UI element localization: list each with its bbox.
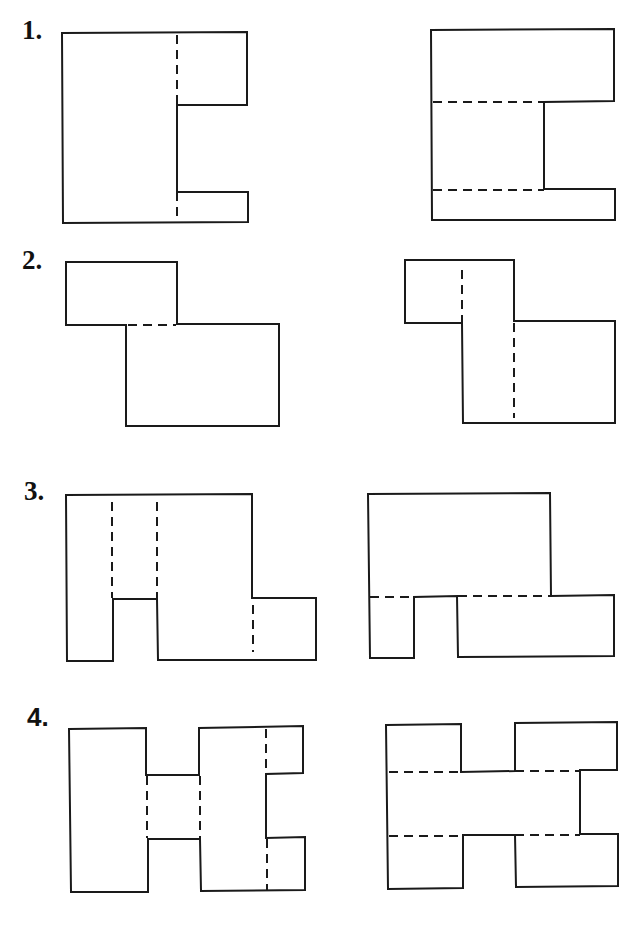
problem-4-left-figure — [69, 726, 305, 892]
figure-outline — [66, 262, 279, 426]
figure-outline — [368, 493, 614, 658]
problem-3-left-figure — [66, 494, 316, 661]
figure-outline — [69, 726, 305, 892]
problem-2-left-figure — [66, 262, 279, 426]
figure-outline — [386, 722, 618, 889]
figure-outline — [431, 29, 615, 220]
orthographic-views-canvas — [0, 0, 642, 926]
problem-4-right-figure — [386, 722, 618, 889]
figure-outline — [62, 32, 248, 223]
problem-3-right-figure — [368, 493, 614, 658]
problem-1-right-figure — [431, 29, 615, 220]
figure-outline — [66, 494, 316, 661]
figure-outline — [405, 260, 615, 423]
problem-2-right-figure — [405, 260, 615, 423]
problem-1-left-figure — [62, 32, 248, 223]
